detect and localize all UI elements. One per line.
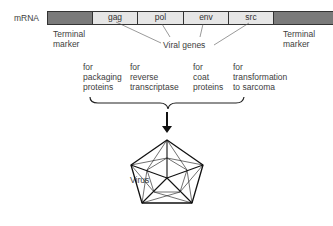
retrovirus-diagram: mRNA gag pol env src Terminal marker Ter… (0, 0, 333, 226)
down-arrow-icon (162, 112, 172, 133)
gene-leader-lines (116, 22, 249, 45)
virus-icosahedron-icon (131, 140, 203, 203)
grouping-brace (90, 97, 244, 109)
diagram-lines (0, 0, 333, 226)
